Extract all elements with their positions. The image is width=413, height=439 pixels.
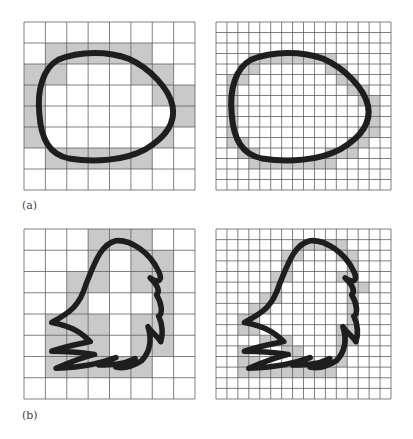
- grid-cell-filled: [369, 127, 380, 138]
- grid-cell-filled: [88, 314, 109, 335]
- grid-svg: [216, 22, 391, 190]
- grid-lines: [216, 22, 391, 190]
- panel-a-coarse-grid: [24, 22, 195, 190]
- grid-cell-filled: [358, 282, 369, 293]
- label-b: (b): [22, 409, 38, 422]
- grid-svg: [24, 229, 195, 399]
- grid-svg: [216, 229, 391, 399]
- grid-cell-filled: [358, 138, 369, 149]
- grid-cell-filled: [325, 367, 336, 378]
- grid-cell-filled: [238, 325, 249, 336]
- grid-cell-filled: [174, 85, 195, 106]
- grid-cell-filled: [325, 159, 336, 170]
- grid-cell-filled: [282, 367, 293, 378]
- grid-cell-filled: [174, 106, 195, 127]
- grid-cell-filled: [347, 148, 358, 159]
- grid-cell-filled: [249, 64, 260, 75]
- panel-a-fine-grid: [216, 22, 391, 190]
- grid-cell-filled: [238, 357, 249, 368]
- panel-b-coarse-grid: [24, 229, 195, 399]
- grid-svg: [24, 22, 195, 190]
- grid-cell-filled: [293, 346, 304, 357]
- grid-cell-filled: [131, 272, 152, 293]
- grid-cell-filled: [293, 367, 304, 378]
- panel-b-fine-grid: [216, 229, 391, 399]
- label-a: (a): [22, 199, 37, 212]
